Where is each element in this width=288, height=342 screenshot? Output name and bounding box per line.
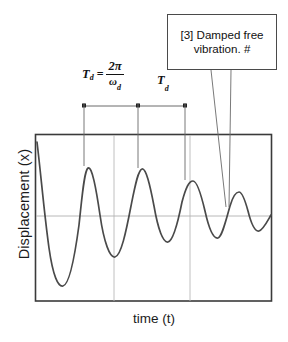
x-axis-label: time (t) xyxy=(35,311,273,326)
period-label-second: Td xyxy=(157,70,169,90)
annotation-callout-box[interactable]: [3] Damped free vibration. # xyxy=(167,14,277,70)
formula-lhs-symbol: T xyxy=(82,67,90,82)
formula-lhs-subscript: d xyxy=(90,73,94,82)
formula-numerator: 2π xyxy=(106,60,123,74)
formula-equals: = xyxy=(97,67,104,82)
formula-fraction: 2π ωd xyxy=(106,60,123,90)
plot-frame xyxy=(36,135,272,302)
period-label-symbol: T xyxy=(157,73,165,87)
annotation-callout-text: [3] Damped free vibration. # xyxy=(168,28,276,56)
formula-denominator: ωd xyxy=(107,75,123,90)
formula-denominator-subscript: d xyxy=(117,83,121,92)
formula-denominator-symbol: ω xyxy=(109,75,117,87)
period-formula: Td = 2π ωd xyxy=(82,60,124,90)
period-label-subscript: d xyxy=(165,84,169,93)
y-axis-label: Displacement (x) xyxy=(16,134,32,274)
damped-vibration-figure: Displacement (x) time (t) Td = 2π ωd Td … xyxy=(0,0,288,342)
